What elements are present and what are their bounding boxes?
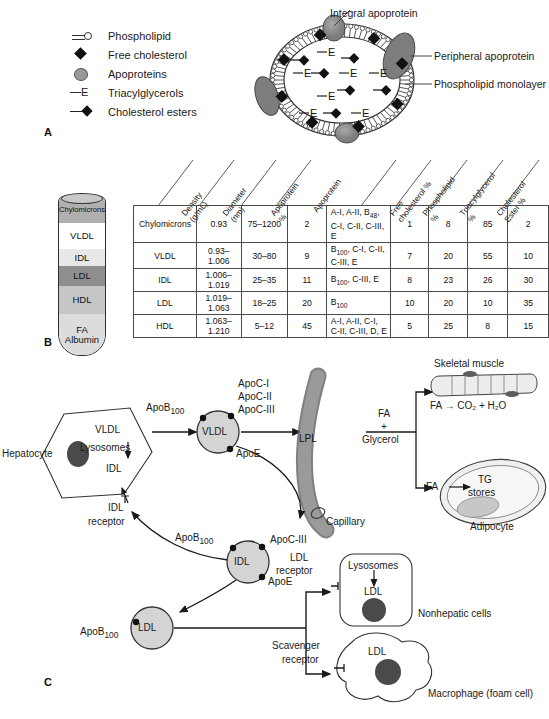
callout-phospholipid-monolayer: Phospholipid monolayer <box>434 78 546 90</box>
callout-integral-apoprotein: Integral apoprotein <box>330 7 418 19</box>
cell-density: 0.93–1.006 <box>196 242 241 269</box>
tube-band-idl: IDL <box>59 249 105 266</box>
lipoprotein-composition-table: Chylomicrons 0.93 75–1200 2 A-I, A-II, B… <box>133 205 549 338</box>
phospholipid-icon <box>68 26 104 45</box>
cell-lipoprotein: HDL <box>134 315 197 338</box>
cell-density: 1.019–1.063 <box>196 292 241 315</box>
label-hepatocyte-idl: IDL <box>106 463 122 475</box>
cell-triacylglycerol: 85 <box>467 206 507 243</box>
legend-item-apoproteins: Apoproteins <box>68 64 197 83</box>
cell-lipoprotein: LDL <box>134 292 197 315</box>
table-row: LDL 1.019–1.063 18–25 20 B100 10 20 10 3… <box>134 292 549 315</box>
label-tg-stores-line2: stores <box>468 487 495 499</box>
label-adipocyte: Adipocyte <box>470 521 514 533</box>
cell-free-cholesterol: 5 <box>390 315 429 338</box>
particle-svg: EEEEEEE <box>262 18 452 143</box>
tube-band-ldl: LDL <box>59 266 105 286</box>
table-row: HDL 1.063–1.210 5–12 45 A-I, A-II, C-I, … <box>134 315 549 338</box>
cell-lipoprotein: VLDL <box>134 242 197 269</box>
cell-density: 1.006–1.019 <box>196 269 241 292</box>
svg-text:E: E <box>380 67 387 79</box>
macrophage-shape <box>334 633 432 702</box>
tube-band-hdl: HDL <box>59 286 105 314</box>
label-idl-apoc-iii: ApoC-III <box>270 534 307 546</box>
label-nonhepatic-ldl: LDL <box>364 586 382 598</box>
cell-diameter: 18–25 <box>241 292 288 315</box>
cell-cholesterol-ester: 30 <box>508 269 549 292</box>
cell-lipoprotein: IDL <box>134 269 197 292</box>
cell-lipoprotein: Chylomicrons <box>134 206 197 243</box>
label-skeletal-muscle: Skeletal muscle <box>434 358 504 370</box>
label-hepatocyte-vldl: VLDL <box>95 424 120 436</box>
apoprotein-ellipse-icon <box>68 64 104 83</box>
cell-free-cholesterol: 10 <box>390 292 429 315</box>
cell-apoprotein-pct: 9 <box>288 242 327 269</box>
tube-rim <box>61 193 103 204</box>
label-apoc-ii: ApoC-II <box>238 391 272 403</box>
table-row: Chylomicrons 0.93 75–1200 2 A-I, A-II, B… <box>134 206 549 243</box>
label-capillary: Capillary <box>326 516 365 528</box>
label-tg-stores-line1: TG <box>478 474 492 486</box>
label-ldl-receptor-line2: receptor <box>276 565 313 577</box>
label-vldl-apob100: ApoB100 <box>146 402 184 418</box>
cell-cholesterol-ester: 10 <box>508 242 549 269</box>
cell-apoproteins: A-I, A-II, C-I, C-II, C-III, D, E <box>326 315 390 338</box>
cell-apoprotein-pct: 20 <box>288 292 327 315</box>
tube-band-fa-albumin: FA Albumin <box>59 314 105 355</box>
label-macrophage-ldl: LDL <box>368 646 386 658</box>
label-idl-apoe: ApoE <box>268 576 292 588</box>
cell-cholesterol-ester: 35 <box>508 292 549 315</box>
tube-band-vldl: VLDL <box>59 223 105 249</box>
label-hepatocyte-lysosomes: Lysosomes <box>80 442 130 454</box>
legend-label: Phospholipid <box>108 30 171 42</box>
cell-apoproteins: A-I, A-II, B48, C-I, C-II, C-III, E <box>326 206 390 243</box>
label-muscle-equation: FA → CO₂ + H₂O <box>430 400 506 412</box>
legend-item-triacylglycerols: E Triacylglycerols <box>68 83 197 102</box>
table-header-band: Density(g/mL) Diameter(nm) Apoprotein% A… <box>133 160 549 206</box>
label-ldl-apob100: ApoB100 <box>80 626 118 642</box>
label-ldl-particle: LDL <box>138 622 156 634</box>
free-cholesterol-diamond-icon <box>68 45 104 64</box>
triacylglycerol-icon: E <box>68 83 104 102</box>
label-idl-particle: IDL <box>234 556 250 568</box>
label-adipocyte-fa: FA <box>426 481 438 493</box>
label-hepatocyte: Hepatocyte <box>2 448 53 460</box>
label-apoc-i: ApoC-I <box>238 378 269 390</box>
cell-apoprotein-pct: 45 <box>288 315 327 338</box>
cell-cholesterol-ester: 15 <box>508 315 549 338</box>
header-slash-lines <box>133 160 549 206</box>
cell-triacylglycerol: 10 <box>467 292 507 315</box>
cell-phospholipid: 20 <box>429 292 468 315</box>
legend-label: Apoproteins <box>108 68 167 80</box>
cell-cholesterol-ester: 2 <box>508 206 549 243</box>
cell-phospholipid: 25 <box>429 315 468 338</box>
cell-diameter: 75–1200 <box>241 206 288 243</box>
panel-b-letter: B <box>44 336 52 348</box>
panel-a-legend: Phospholipid Free cholesterol Apoprotein… <box>68 26 197 121</box>
cell-apoproteins: B100, C-III, E <box>326 269 390 292</box>
label-idl-receptor-line2: receptor <box>88 516 125 528</box>
cell-free-cholesterol: 7 <box>390 242 429 269</box>
cell-diameter: 30–80 <box>241 242 288 269</box>
skeletal-muscle-shape <box>431 371 537 397</box>
cell-free-cholesterol: 1 <box>390 206 429 243</box>
legend-item-free-cholesterol: Free cholesterol <box>68 45 197 64</box>
cell-apoproteins: B100 <box>326 292 390 315</box>
label-macrophage: Macrophage (foam cell) <box>428 688 533 700</box>
label-vldl-apoe: ApoE <box>236 448 260 460</box>
cell-diameter: 25–35 <box>241 269 288 292</box>
cell-triacylglycerol: 26 <box>467 269 507 292</box>
legend-label: Cholesterol esters <box>108 106 197 118</box>
label-apoc-iii: ApoC-III <box>238 404 275 416</box>
legend-item-cholesterol-esters: Cholesterol esters <box>68 102 197 121</box>
cholesterol-ester-icon <box>68 102 104 121</box>
label-scavenger-line2: receptor <box>282 654 319 666</box>
panel-a-letter: A <box>44 126 52 138</box>
cell-apoproteins: B100, C-I, C-II, C-III, E <box>326 242 390 269</box>
label-scavenger-line1: Scavenger <box>272 640 320 652</box>
cell-phospholipid: 23 <box>429 269 468 292</box>
table-row: VLDL 0.93–1.006 30–80 9 B100, C-I, C-II,… <box>134 242 549 269</box>
lipoprotein-particle-diagram: EEEEEEE Integral apoprotein Peripheral a… <box>262 18 452 143</box>
legend-label: Free cholesterol <box>108 49 187 61</box>
svg-text:E: E <box>328 46 335 58</box>
